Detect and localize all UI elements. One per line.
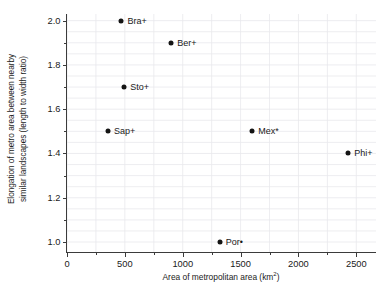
data-point-label: Bra+	[127, 16, 146, 26]
y-axis-tick	[63, 65, 68, 66]
x-axis-tick-label: 0	[64, 259, 69, 269]
y-axis-title-line-2: similar landscapes (length to width rati…	[17, 54, 29, 204]
x-axis-title-text: Area of metropolitan area (km	[163, 272, 274, 282]
y-axis-minor-tick	[64, 220, 67, 221]
data-point-marker	[346, 151, 351, 156]
data-point-label: Mex*	[258, 126, 279, 136]
y-axis-minor-tick	[64, 176, 67, 177]
x-axis-tick	[183, 252, 184, 257]
data-point-label: Sap+	[114, 126, 135, 136]
y-axis-tick	[63, 21, 68, 22]
x-axis-tick	[67, 252, 68, 257]
y-axis-tick-label: 1.2	[48, 193, 61, 203]
x-axis-minor-tick	[327, 252, 328, 255]
y-axis-title-line-1: Elongation of metro area between nearby	[6, 54, 18, 204]
y-axis-tick	[63, 109, 68, 110]
y-axis-minor-tick	[64, 131, 67, 132]
data-point-marker	[217, 240, 222, 245]
data-point-marker	[122, 85, 127, 90]
data-point-marker	[119, 18, 124, 23]
data-point-label: Ber+	[177, 38, 196, 48]
y-axis-tick	[63, 242, 68, 243]
y-axis-minor-tick	[64, 87, 67, 88]
x-axis-minor-tick	[96, 252, 97, 255]
y-axis-tick-label: 1.6	[48, 104, 61, 114]
x-axis-tick	[298, 252, 299, 257]
plot-area: 1.01.21.41.61.82.005001000150020002500Br…	[66, 14, 376, 253]
data-point-marker	[250, 129, 255, 134]
x-axis-tick	[241, 252, 242, 257]
x-axis-minor-tick	[270, 252, 271, 255]
data-point-label: Phi+	[354, 148, 372, 158]
x-axis-title-tail: )	[277, 272, 280, 282]
x-axis-tick-label: 1500	[230, 259, 251, 269]
y-axis-tick-label: 1.8	[48, 60, 61, 70]
data-point-marker	[106, 129, 111, 134]
y-axis-tick	[63, 198, 68, 199]
y-axis-tick-label: 1.4	[48, 148, 61, 158]
x-axis-tick	[356, 252, 357, 257]
x-axis-tick-label: 2500	[346, 259, 367, 269]
data-point-label: Por•	[226, 237, 243, 247]
scatter-chart-figure: Elongation of metro area between nearby …	[0, 0, 391, 296]
x-axis-minor-tick	[154, 252, 155, 255]
x-axis-tick-label: 2000	[288, 259, 309, 269]
x-axis-tick-label: 1000	[172, 259, 193, 269]
x-axis-title: Area of metropolitan area (km2)	[66, 271, 376, 282]
x-axis-tick-label: 500	[117, 259, 133, 269]
y-axis-minor-tick	[64, 43, 67, 44]
data-point-marker	[169, 40, 174, 45]
y-axis-title: Elongation of metro area between nearby …	[0, 0, 34, 258]
y-axis-tick	[63, 153, 68, 154]
x-axis-tick	[125, 252, 126, 257]
data-point-label: Sto+	[130, 82, 149, 92]
y-axis-tick-label: 2.0	[48, 16, 61, 26]
y-axis-tick-label: 1.0	[48, 237, 61, 247]
x-axis-minor-tick	[212, 252, 213, 255]
